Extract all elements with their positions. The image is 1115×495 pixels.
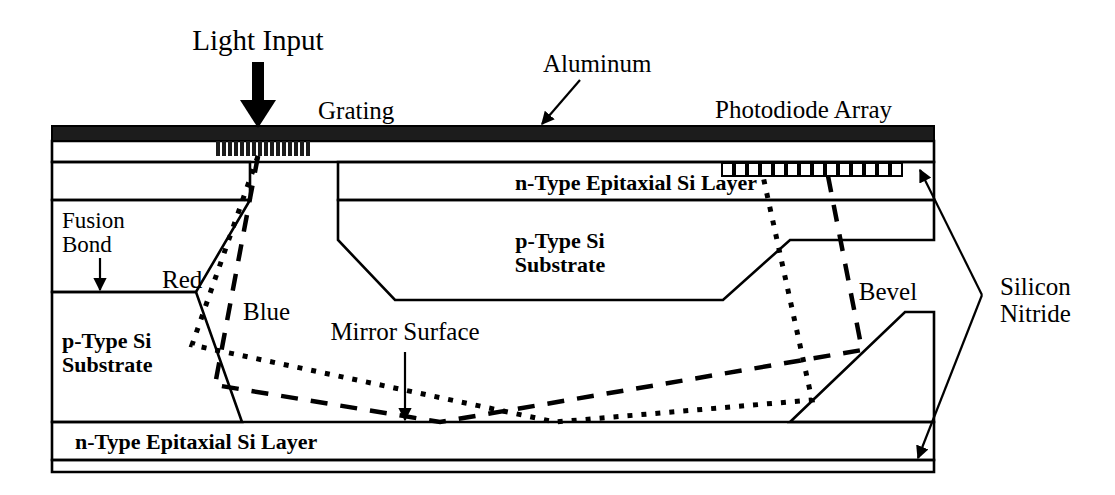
nitride-layer-bottom bbox=[52, 460, 934, 472]
label-light-input: Light Input bbox=[192, 24, 323, 56]
label-red-ray: Red bbox=[162, 266, 203, 293]
grating-tooth bbox=[252, 141, 256, 156]
grating-tooth bbox=[282, 141, 286, 156]
aluminum-layer-group bbox=[52, 126, 934, 156]
photodiode bbox=[813, 163, 824, 176]
label-substrate-mid-line1: p-Type Si bbox=[515, 228, 604, 253]
photodiode bbox=[800, 163, 811, 176]
label-substrate-left-line2: Substrate bbox=[62, 352, 153, 377]
label-substrate-mid-line2: Substrate bbox=[515, 252, 606, 277]
figure-canvas: Light Input Grating Aluminum Photodiode … bbox=[0, 0, 1115, 495]
grating-tooth bbox=[246, 141, 250, 156]
photodiode bbox=[761, 163, 772, 176]
grating-tooth bbox=[258, 141, 262, 156]
silicon-nitride-leader bbox=[918, 170, 982, 458]
silicon-nitride-leader-top bbox=[920, 170, 982, 295]
bevel-wedge bbox=[790, 312, 934, 422]
aluminum-layer bbox=[52, 126, 934, 141]
photodiode bbox=[787, 163, 798, 176]
grating-tooth bbox=[294, 141, 298, 156]
aluminum-leader bbox=[542, 80, 580, 124]
label-substrate-left-line1: p-Type Si bbox=[62, 328, 151, 353]
label-bevel: Bevel bbox=[859, 278, 917, 305]
label-silicon-nitride-line2: Nitride bbox=[1000, 300, 1071, 327]
photodiode bbox=[852, 163, 863, 176]
silicon-nitride-leader-bottom bbox=[918, 295, 982, 458]
grating-tooth bbox=[222, 141, 226, 156]
label-fusion-bond-line1: Fusion bbox=[62, 208, 125, 233]
grating-tooth bbox=[228, 141, 232, 156]
ray-red-path bbox=[192, 156, 812, 422]
grating-tooth bbox=[288, 141, 292, 156]
grating-tooth bbox=[216, 141, 220, 156]
label-grating: Grating bbox=[318, 97, 395, 124]
grating-tooth bbox=[300, 141, 304, 156]
label-blue-ray: Blue bbox=[243, 298, 290, 325]
light-input-arrow bbox=[240, 62, 276, 128]
grating-teeth-group bbox=[216, 141, 310, 156]
label-photodiode-array: Photodiode Array bbox=[715, 96, 893, 123]
grating-tooth bbox=[234, 141, 238, 156]
photodiode bbox=[865, 163, 876, 176]
epi-layer-top-left bbox=[52, 162, 250, 200]
photodiode bbox=[774, 163, 785, 176]
photodiode bbox=[891, 163, 902, 176]
grating-tooth bbox=[306, 141, 310, 156]
arrow-shaft bbox=[252, 62, 264, 104]
grating-tooth bbox=[276, 141, 280, 156]
nitride-layer-top bbox=[52, 141, 934, 162]
photodiode bbox=[878, 163, 889, 176]
photodiode bbox=[826, 163, 837, 176]
label-silicon-nitride-line1: Silicon bbox=[1000, 273, 1071, 300]
label-mirror-surface: Mirror Surface bbox=[330, 318, 479, 345]
label-fusion-bond-line2: Bond bbox=[62, 232, 112, 257]
label-aluminum: Aluminum bbox=[543, 50, 652, 77]
photodiode bbox=[839, 163, 850, 176]
grating-tooth bbox=[270, 141, 274, 156]
label-epi-bottom: n-Type Epitaxial Si Layer bbox=[75, 429, 317, 454]
device-cross-section: Light Input Grating Aluminum Photodiode … bbox=[0, 0, 1115, 495]
arrow-head bbox=[240, 100, 276, 128]
grating-tooth bbox=[264, 141, 268, 156]
label-epi-top: n-Type Epitaxial Si Layer bbox=[515, 170, 757, 195]
grating-tooth bbox=[240, 141, 244, 156]
